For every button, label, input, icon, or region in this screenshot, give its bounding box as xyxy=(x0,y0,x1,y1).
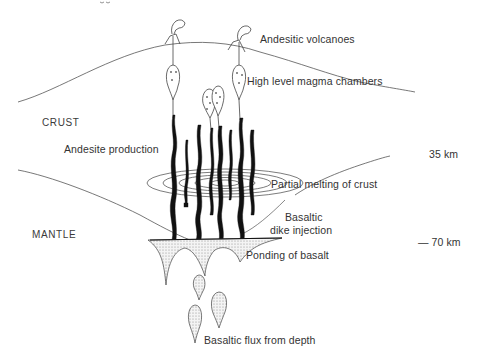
label-high-level-magma-chambers: High level magma chambers xyxy=(247,75,383,87)
crustal-cross-section xyxy=(0,0,479,359)
region-label-crust: CRUST xyxy=(42,117,79,129)
region-label-mantle: MANTLE xyxy=(32,229,76,241)
basalt-diapirs xyxy=(188,275,226,343)
depth-marker-35km: 35 km xyxy=(429,148,458,160)
basaltic-dikes xyxy=(170,115,255,240)
magma-chamber-icon xyxy=(166,65,245,118)
label-basaltic-dike-line1: Basaltic xyxy=(270,211,332,224)
volcano-left-icon xyxy=(165,20,185,65)
label-ponding-of-basalt: Ponding of basalt xyxy=(246,249,329,261)
label-basaltic-dike-injection: Basaltic dike injection xyxy=(270,211,332,236)
label-andesite-production: Andesite production xyxy=(64,143,159,155)
label-andesitic-volcanoes: Andesitic volcanoes xyxy=(260,33,355,45)
label-basaltic-flux: Basaltic flux from depth xyxy=(204,334,316,346)
basalt-pond xyxy=(148,238,282,285)
cropped-title-fragment xyxy=(100,2,110,3)
diagram-canvas: Andesitic volcanoes High level magma cha… xyxy=(0,0,479,359)
depth-marker-70km: — 70 km xyxy=(418,236,461,248)
label-basaltic-dike-line2: dike injection xyxy=(270,224,332,237)
label-partial-melting: Partial melting of crust xyxy=(271,178,377,190)
volcano-right-icon xyxy=(228,26,251,65)
